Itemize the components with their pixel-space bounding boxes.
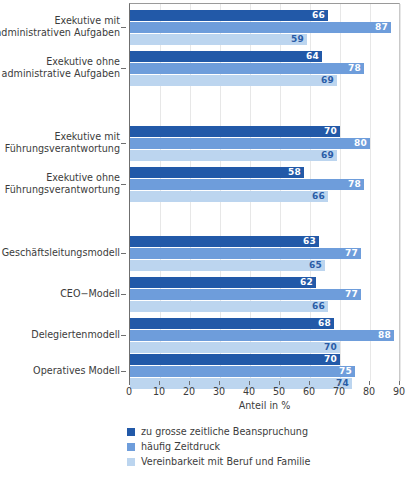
category-label: Operatives Modell xyxy=(33,365,120,377)
x-tick xyxy=(369,381,370,385)
chart-legend: zu grosse zeitliche Beanspruchunghäufig … xyxy=(127,424,310,469)
category-label-line: Operatives Modell xyxy=(33,365,120,377)
legend-item[interactable]: häufig Zeitdruck xyxy=(127,439,310,454)
bar: 69 xyxy=(130,75,337,86)
bar: 77 xyxy=(130,248,361,259)
gridline xyxy=(400,4,401,381)
legend-item[interactable]: Vereinbarkeit mit Beruf und Familie xyxy=(127,454,310,469)
category-tick xyxy=(121,184,126,185)
bar: 66 xyxy=(130,10,328,21)
x-tick-label: 20 xyxy=(183,386,195,397)
bar-value-label: 64 xyxy=(306,51,319,62)
bar-value-label: 68 xyxy=(318,318,331,329)
category-tick xyxy=(121,335,126,336)
category-label: Geschäftsleitungsmodell xyxy=(2,247,120,259)
bar: 62 xyxy=(130,277,316,288)
bars-layer: 6687596478697080695878666377656277666888… xyxy=(130,4,399,381)
category-tick xyxy=(121,143,126,144)
category-label-line: Exekutive mit xyxy=(0,15,120,27)
legend-item[interactable]: zu grosse zeitliche Beanspruchung xyxy=(127,424,310,439)
category-label: Delegiertenmodell xyxy=(31,329,120,341)
bar-value-label: 66 xyxy=(312,10,325,21)
category-tick xyxy=(121,253,126,254)
x-tick xyxy=(189,381,190,385)
bar: 58 xyxy=(130,167,304,178)
bar: 63 xyxy=(130,236,319,247)
bar: 88 xyxy=(130,330,394,341)
x-tick xyxy=(159,381,160,385)
bar-value-label: 88 xyxy=(378,330,391,341)
bar: 66 xyxy=(130,301,328,312)
x-tick-label: 90 xyxy=(393,386,405,397)
category-tick xyxy=(121,68,126,69)
bar-value-label: 75 xyxy=(339,366,352,377)
bar: 64 xyxy=(130,51,322,62)
x-tick xyxy=(309,381,310,385)
bar-value-label: 70 xyxy=(324,342,337,353)
category-label: Exekutive ohneadministrative Aufgaben xyxy=(2,56,120,80)
bar: 78 xyxy=(130,179,364,190)
x-tick xyxy=(279,381,280,385)
category-label: Exekutive mitadministrativen Aufgaben xyxy=(0,15,120,39)
x-tick-label: 80 xyxy=(363,386,375,397)
bar-chart: Exekutive mitadministrativen AufgabenExe… xyxy=(0,0,412,482)
category-tick xyxy=(121,294,126,295)
bar-value-label: 69 xyxy=(321,75,334,86)
category-label: CEO−Modell xyxy=(60,288,120,300)
bar-value-label: 65 xyxy=(309,260,322,271)
x-tick xyxy=(399,381,400,385)
bar: 69 xyxy=(130,150,337,161)
bar: 70 xyxy=(130,126,340,137)
category-tick xyxy=(121,27,126,28)
bar-value-label: 58 xyxy=(288,167,301,178)
x-tick-label: 50 xyxy=(273,386,285,397)
bar: 70 xyxy=(130,354,340,365)
bar: 75 xyxy=(130,366,355,377)
bar-value-label: 59 xyxy=(291,34,304,45)
category-label-line: administrativen Aufgaben xyxy=(0,27,120,39)
category-label-line: Exekutive ohne xyxy=(2,56,120,68)
x-tick xyxy=(249,381,250,385)
x-tick-label: 40 xyxy=(243,386,255,397)
bar-value-label: 77 xyxy=(345,289,358,300)
x-tick-label: 60 xyxy=(303,386,315,397)
legend-label: häufig Zeitdruck xyxy=(141,441,220,452)
bar-value-label: 66 xyxy=(312,301,325,312)
bar-value-label: 70 xyxy=(324,354,337,365)
bar: 78 xyxy=(130,63,364,74)
bar: 77 xyxy=(130,289,361,300)
bar-value-label: 63 xyxy=(303,236,316,247)
bar: 68 xyxy=(130,318,334,329)
legend-swatch-icon xyxy=(127,458,135,466)
bar-value-label: 77 xyxy=(345,248,358,259)
category-axis-labels: Exekutive mitadministrativen AufgabenExe… xyxy=(0,3,126,381)
category-label-line: Geschäftsleitungsmodell xyxy=(2,247,120,259)
category-label-line: Exekutive mit xyxy=(5,131,120,143)
legend-label: Vereinbarkeit mit Beruf und Familie xyxy=(141,456,310,467)
bar-value-label: 80 xyxy=(354,138,367,149)
plot-area: 6687596478697080695878666377656277666888… xyxy=(129,3,400,381)
category-label-line: Führungsverantwortung xyxy=(5,184,120,196)
bar: 80 xyxy=(130,138,370,149)
category-label-line: CEO−Modell xyxy=(60,288,120,300)
x-tick xyxy=(339,381,340,385)
bar: 70 xyxy=(130,342,340,353)
category-label: Exekutive mitFührungsverantwortung xyxy=(5,131,120,155)
bar: 66 xyxy=(130,191,328,202)
x-tick xyxy=(219,381,220,385)
bar-value-label: 62 xyxy=(300,277,313,288)
category-label-line: Exekutive ohne xyxy=(5,172,120,184)
bar-value-label: 69 xyxy=(321,150,334,161)
x-axis-title: Anteil in % xyxy=(129,400,400,411)
x-tick-label: 70 xyxy=(333,386,345,397)
category-tick xyxy=(121,371,126,372)
bar-value-label: 78 xyxy=(348,179,361,190)
bar: 65 xyxy=(130,260,325,271)
legend-swatch-icon xyxy=(127,428,135,436)
category-label-line: Delegiertenmodell xyxy=(31,329,120,341)
legend-swatch-icon xyxy=(127,443,135,451)
x-tick-label: 30 xyxy=(213,386,225,397)
category-label: Exekutive ohneFührungsverantwortung xyxy=(5,172,120,196)
category-label-line: Führungsverantwortung xyxy=(5,143,120,155)
bar-value-label: 78 xyxy=(348,63,361,74)
